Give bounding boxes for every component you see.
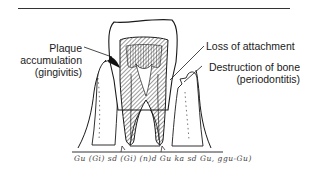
handwritten-caption: Gu (Gi) sd (Gi) (n)d Gu ka sd Gu, ggu-Gu…	[74, 154, 252, 163]
label-plaque-accumulation: Plaque accumulation (gingivitis)	[10, 42, 82, 78]
label-plaque-line1: Plaque	[10, 42, 82, 54]
label-plaque-line2: accumulation	[10, 54, 82, 66]
root-apex	[121, 146, 165, 152]
diagram-canvas: Plaque accumulation (gingivitis) Loss of…	[0, 0, 313, 181]
label-bone-line2: (periodontitis)	[204, 73, 300, 85]
label-destruction-of-bone: Destruction of bone (periodontitis)	[204, 61, 300, 85]
label-loss-of-attachment: Loss of attachment	[206, 40, 295, 52]
pulp-chamber	[126, 45, 162, 71]
label-plaque-line3: (gingivitis)	[10, 66, 82, 78]
label-bone-line1: Destruction of bone	[204, 61, 300, 73]
